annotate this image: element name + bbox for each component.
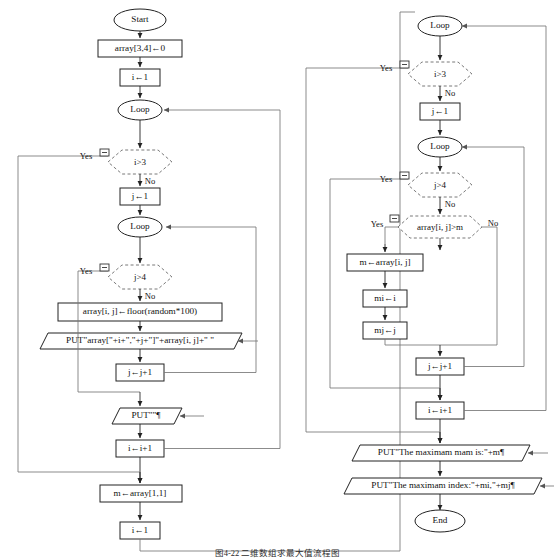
node-put-cell <box>40 333 242 349</box>
node-loop-inner2 <box>418 137 462 157</box>
conn-outer-yes-b <box>306 68 440 432</box>
node-dec-i-gt3 <box>108 150 172 174</box>
node-dec-j-gt4-b <box>408 173 472 197</box>
node-mi-set <box>363 290 407 307</box>
minus-box-icon <box>100 264 109 271</box>
minus-box-icon <box>400 61 409 68</box>
conn-inner-loop-back-b <box>462 147 524 367</box>
node-loop-inner <box>118 217 162 237</box>
node-arr-assign <box>58 303 222 321</box>
conn-arr-yes <box>385 227 398 244</box>
minus-box-icon <box>100 149 109 156</box>
node-dec-arr-gt-m <box>398 216 482 238</box>
node-put-index <box>344 478 542 494</box>
node-m-set <box>347 254 423 271</box>
node-mj-set <box>363 322 407 339</box>
figure-caption: 图4-22 二维数组求最大值流程图 <box>215 546 341 558</box>
conn-arr-no <box>440 227 497 345</box>
flowchart-canvas <box>0 0 555 558</box>
conn-outer-loop-back-b <box>462 26 546 411</box>
conn-mj-join <box>385 339 440 345</box>
conn-inner-loop-back <box>164 227 256 373</box>
node-loop-outer2 <box>418 16 462 36</box>
node-end <box>415 510 465 532</box>
node-arr-init <box>98 40 182 57</box>
node-loop-outer <box>118 100 162 120</box>
node-i-inc-b <box>416 402 464 419</box>
node-i-reset <box>120 522 160 539</box>
node-dec-i-gt3-b <box>408 62 472 86</box>
node-j-init-b <box>420 103 460 120</box>
node-j-inc <box>116 364 164 381</box>
node-start <box>114 9 166 31</box>
minus-box-icon <box>400 172 409 179</box>
node-j-init <box>120 188 160 205</box>
node-i-inc <box>116 440 164 457</box>
node-put-blank <box>112 408 182 424</box>
node-dec-j-gt4 <box>108 265 172 289</box>
node-j-inc-b <box>416 358 464 375</box>
conn-outer-loop-back <box>164 110 280 449</box>
node-i-init <box>120 69 160 86</box>
node-put-max <box>352 445 530 461</box>
conn-bridge-to-right <box>140 12 415 551</box>
flowchart-figure: Start array[3,4]←0 i←1 Loop i>3 j←1 Loop… <box>0 0 555 558</box>
minus-box-icon <box>390 215 399 222</box>
node-m-init <box>100 485 182 502</box>
